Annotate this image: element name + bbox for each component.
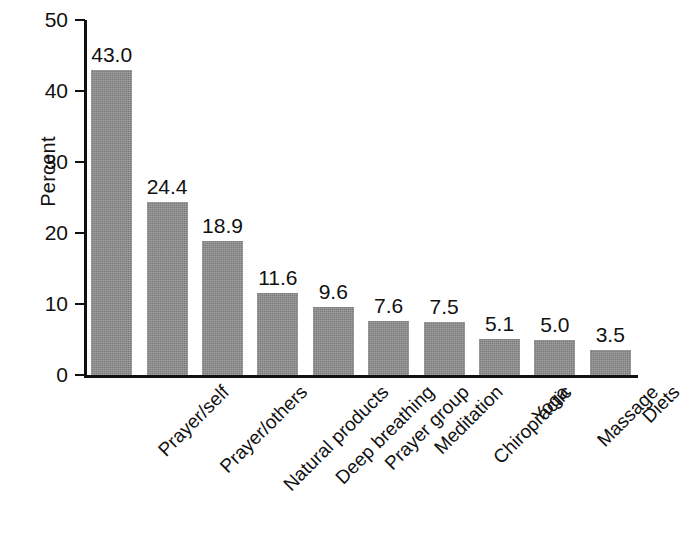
bar[interactable] xyxy=(91,70,132,375)
bar[interactable] xyxy=(313,307,354,375)
bar[interactable] xyxy=(257,293,298,375)
bar[interactable] xyxy=(368,321,409,375)
bar[interactable] xyxy=(479,339,520,375)
y-axis-tick-label: 50 xyxy=(45,9,68,30)
y-axis-tick-label: 10 xyxy=(45,293,68,314)
bar[interactable] xyxy=(534,340,575,376)
plot-area: 43.024.418.911.69.67.67.55.15.03.5 xyxy=(84,20,638,375)
y-axis-tick-label: 20 xyxy=(45,222,68,243)
bar-value-label: 43.0 xyxy=(72,44,152,65)
y-axis-tick-label: 40 xyxy=(45,80,68,101)
bar[interactable] xyxy=(202,241,243,375)
y-axis-tick-label: 0 xyxy=(56,364,68,385)
bar[interactable] xyxy=(590,350,631,375)
bar-value-label: 3.5 xyxy=(570,324,650,345)
y-axis-tick-label: 30 xyxy=(45,151,68,172)
bar-value-label: 18.9 xyxy=(183,215,263,236)
bar-value-label: 24.4 xyxy=(127,176,207,197)
x-axis-line xyxy=(84,375,638,378)
x-axis-category-label: Yoga xyxy=(528,382,572,426)
bar[interactable] xyxy=(147,202,188,375)
bar[interactable] xyxy=(424,322,465,375)
x-axis-category-label: Prayer/self xyxy=(154,382,232,460)
